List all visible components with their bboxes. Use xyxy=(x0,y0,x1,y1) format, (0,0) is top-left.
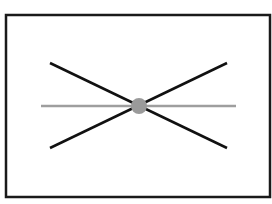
crossing-lines-diagram xyxy=(0,0,272,204)
intersection-point xyxy=(131,98,147,114)
